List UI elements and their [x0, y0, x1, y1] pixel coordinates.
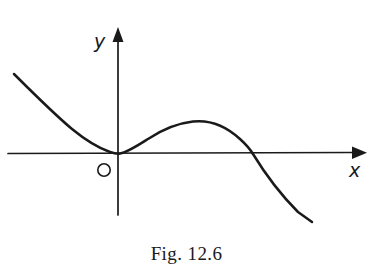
figure-caption: Fig. 12.6	[0, 243, 373, 265]
y-axis-label: y	[93, 30, 106, 52]
x-axis-label: x	[348, 159, 361, 181]
curve-path	[14, 74, 312, 222]
x-axis-line	[8, 153, 352, 154]
x-axis-arrow-icon	[352, 147, 367, 160]
y-axis-arrow-icon	[113, 27, 124, 42]
origin-label-o	[98, 164, 110, 176]
figure-container: y x Fig. 12.6	[0, 0, 373, 274]
function-graph-plot: y x	[0, 0, 373, 274]
